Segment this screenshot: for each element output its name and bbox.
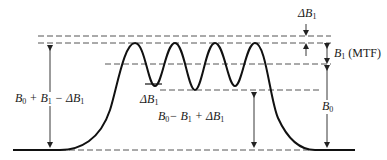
b0-right-label: B0	[322, 100, 333, 114]
delta-b1-top-label: ΔB1	[298, 7, 316, 21]
center-span-label: B0− B1 + ΔB1	[158, 110, 224, 124]
left-span-label: B0 + B1 − ΔB1	[15, 92, 84, 106]
arrows	[50, 24, 327, 145]
mtf-waveform-diagram	[0, 0, 387, 160]
b1-mtf-label: B1 (MTF)	[334, 47, 381, 61]
delta-b1-trough-label: ΔB1	[140, 93, 158, 107]
